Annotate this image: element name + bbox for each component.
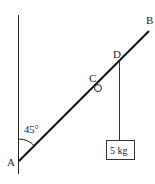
label-d: D — [113, 48, 121, 60]
label-mass: 5 kg — [110, 145, 128, 156]
label-angle: 45° — [24, 124, 39, 135]
label-a: A — [7, 156, 15, 168]
label-b: B — [146, 14, 153, 26]
label-c: C — [89, 72, 96, 84]
point-c-circle — [95, 85, 102, 92]
diagram-canvas: A B C D 45° 5 kg — [0, 0, 155, 184]
angle-arc — [19, 139, 35, 146]
